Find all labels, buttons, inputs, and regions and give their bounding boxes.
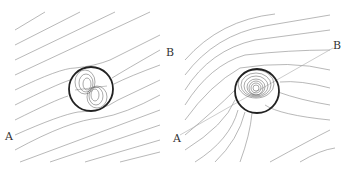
right-panel-field-lines xyxy=(185,14,335,162)
left-label-a: A xyxy=(5,131,13,142)
line-a-to-b-right xyxy=(180,48,333,135)
left-inner-contours xyxy=(75,70,107,108)
right-label-b: B xyxy=(333,40,341,51)
left-label-b: B xyxy=(166,47,174,58)
left-panel-field-lines xyxy=(15,12,160,162)
figure-canvas xyxy=(0,0,349,173)
right-label-a: A xyxy=(173,133,181,144)
